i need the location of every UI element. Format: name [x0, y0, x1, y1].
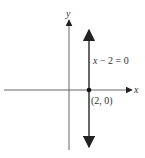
- point-2-0: [87, 88, 92, 93]
- point-label: (2, 0): [91, 95, 113, 107]
- equation-rest: − 2 = 0: [97, 55, 128, 66]
- equation-label: x − 2 = 0: [92, 55, 129, 66]
- y-axis-label: y: [65, 8, 71, 19]
- coordinate-plane-diagram: y x x − 2 = 0 (2, 0): [0, 0, 145, 158]
- x-axis-label: x: [133, 84, 139, 95]
